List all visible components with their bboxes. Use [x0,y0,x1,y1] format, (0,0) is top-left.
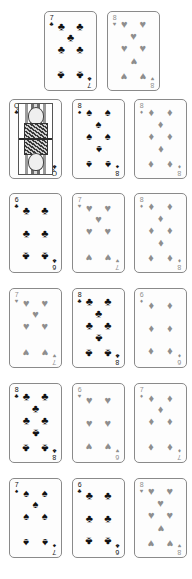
corner-suit-icon: ♥ [116,448,120,454]
playing-card-8-of-hearts[interactable]: 8♥8♥♥♥♥♥♥♥♥♥ [107,11,160,91]
pip-clubs-3: ♣ [32,403,39,414]
playing-card-8-of-clubs[interactable]: 8♣8♣♣♣♣♣♣♣♣♣ [72,288,125,368]
pip-clubs-2: ♣ [76,20,83,31]
pip-hearts-5: ♥ [41,320,48,331]
pip-hearts-3: ♥ [130,31,137,42]
playing-card-8-of-spades[interactable]: 8♠8♠♠♠♠♠♠♠♠♠ [72,99,125,179]
corner-suit-icon: ♥ [78,393,82,399]
pip-diamonds-3: ♦ [158,119,164,130]
pip-clubs-5: ♣ [41,415,48,426]
pip-spades-3: ♠ [33,499,39,510]
corner-suit-icon: ♣ [78,298,82,304]
pip-field: ♣♣♣♣♣♣♣♣ [82,293,115,363]
pip-clubs-1: ♣ [23,391,30,402]
pip-spades-7: ♠ [86,159,92,170]
corner-suit-icon: ♥ [116,258,120,264]
playing-card-6-of-clubs[interactable]: 6♣6♣♣♣♣♣♣♣ [9,193,62,273]
corner-suit-icon: ♥ [178,543,182,549]
pip-spades-5: ♠ [105,131,111,142]
pip-clubs-6: ♣ [95,332,102,343]
pip-field: ♦♦♦♦♦♦♦♦ [144,104,177,174]
pip-hearts-7: ♥ [104,251,111,262]
playing-card-7-of-hearts[interactable]: 7♥7♥♥♥♥♥♥♥♥ [72,193,125,273]
playing-card-7-of-spades[interactable]: 7♠7♠♠♠♠♠♠♠♠ [9,478,62,558]
pip-diamonds-5: ♦ [167,131,173,142]
pip-hearts-4: ♥ [23,320,30,331]
corner-suit-icon: ♥ [151,76,155,82]
playing-card-7-of-hearts[interactable]: 7♥7♥♥♥♥♥♥♥♥ [9,288,62,368]
corner-rank: 7 [53,548,57,555]
pip-clubs-5: ♣ [86,536,93,547]
pip-clubs-4: ♣ [41,228,48,239]
pip-spades-4: ♠ [23,510,29,521]
pip-diamonds-5: ♦ [167,225,173,236]
pip-clubs-3: ♣ [23,228,30,239]
playing-card-8-of-diamonds[interactable]: 8♦8♦♦♦♦♦♦♦♦♦ [134,193,187,273]
pip-hearts-7: ♥ [121,71,128,82]
pip-diamonds-7: ♦ [167,441,173,452]
pip-hearts-3: ♥ [95,214,102,225]
pip-spades-5: ♠ [42,510,48,521]
pip-hearts-2: ♥ [104,202,111,213]
pip-diamonds-1: ♦ [148,201,154,212]
pip-diamonds-2: ♦ [167,201,173,212]
pip-diamonds-3: ♦ [158,213,164,224]
pip-hearts-6: ♥ [130,55,137,66]
pip-hearts-6: ♥ [86,251,93,262]
corner-suit-icon: ♦ [178,448,181,454]
corner-rank: 6 [53,263,57,270]
corner-suit-icon: ♦ [140,203,143,209]
corner-suit-icon: ♠ [15,488,18,494]
playing-card-8-of-hearts[interactable]: 8♥8♥♥♥♥♥♥♥♥♥ [134,478,187,558]
pip-clubs-4: ♣ [104,513,111,524]
corner-rank: 7 [178,453,182,460]
pip-clubs-1: ♣ [86,489,93,500]
face-card-head-bottom [28,153,44,171]
playing-card-7-of-clubs[interactable]: 7♣7♣♣♣♣♣♣♣♣ [44,11,97,91]
pip-spades-2: ♠ [42,487,48,498]
pip-clubs-5: ♣ [23,251,30,262]
playing-card-8-of-clubs[interactable]: 8♣8♣♣♣♣♣♣♣♣♣ [9,383,62,463]
pip-field: ♦♦♦♦♦♦♦ [144,388,177,458]
pip-diamonds-2: ♦ [167,107,173,118]
playing-card-7-of-diamonds[interactable]: 7♦7♦♦♦♦♦♦♦♦ [134,383,187,463]
pip-hearts-2: ♥ [166,486,173,497]
pip-diamonds-5: ♦ [167,415,173,426]
pip-diamonds-6: ♦ [158,143,164,154]
pip-field: ♣♣♣♣♣♣ [19,198,52,268]
corner-suit-icon: ♥ [53,353,57,359]
pip-spades-6: ♠ [23,536,29,547]
pip-hearts-3: ♥ [157,498,164,509]
corner-suit-icon: ♣ [15,203,19,209]
corner-suit-icon: ♦ [178,164,181,170]
pip-clubs-6: ♣ [32,427,39,438]
pip-field: ♦♦♦♦♦♦♦♦ [144,198,177,268]
pip-hearts-3: ♥ [32,309,39,320]
corner-rank: 7 [53,358,57,365]
pip-field: ♣♣♣♣♣♣♣ [54,16,87,86]
pip-diamonds-4: ♦ [148,415,154,426]
pip-clubs-8: ♣ [41,443,48,454]
corner-suit-icon: ♦ [178,353,181,359]
playing-card-8-of-diamonds[interactable]: 8♦8♦♦♦♦♦♦♦♦♦ [134,99,187,179]
corner-suit-icon: ♣ [53,164,57,170]
corner-rank: 8 [151,81,155,88]
pip-hearts-6: ♥ [104,441,111,452]
playing-card-q-of-clubs[interactable]: Q♣Q♣ [9,99,62,179]
playing-card-6-of-diamonds[interactable]: 6♦6♦♦♦♦♦♦♦ [134,288,187,368]
pip-diamonds-6: ♦ [148,441,154,452]
corner-suit-icon: ♠ [78,109,81,115]
corner-suit-icon: ♣ [53,448,57,454]
playing-card-6-of-clubs[interactable]: 6♣6♣♣♣♣♣♣♣ [72,478,125,558]
pip-hearts-4: ♥ [86,225,93,236]
corner-suit-icon: ♣ [88,76,92,82]
pip-clubs-8: ♣ [104,348,111,359]
pip-hearts-8: ♥ [166,538,173,549]
pip-hearts-5: ♥ [139,43,146,54]
corner-rank: 8 [178,548,182,555]
pip-spades-3: ♠ [96,119,102,130]
pip-diamonds-4: ♦ [167,323,173,334]
pip-clubs-1: ♣ [86,296,93,307]
corner-suit-icon: ♦ [140,109,143,115]
playing-card-6-of-hearts[interactable]: 6♥6♥♥♥♥♥♥♥ [72,383,125,463]
